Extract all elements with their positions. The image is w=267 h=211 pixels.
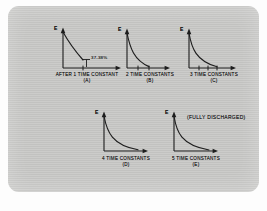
caption-e: 5 TIME CONSTANTS (E) xyxy=(154,156,238,168)
discharge-curve-d xyxy=(94,110,158,156)
discharge-panel-b: E xyxy=(118,28,178,72)
discharge-curve-a xyxy=(52,26,128,72)
y-axis-label-d: E xyxy=(95,109,98,115)
caption-c: 3 TIME CONSTANTS (C) xyxy=(172,72,256,84)
caption-b-text: 2 TIME CONSTANTS xyxy=(126,72,174,77)
panel-label-c: (C) xyxy=(172,78,256,84)
fully-discharged-note: (FULLY DISCHARGED) xyxy=(187,114,246,120)
discharge-panel-a: E 37-38% xyxy=(52,26,128,72)
discharge-curve-c xyxy=(180,28,246,72)
y-axis-label-c: E xyxy=(180,26,183,32)
percent-callout-a: 37-38% xyxy=(91,55,107,60)
caption-e-text: 5 TIME CONSTANTS xyxy=(172,156,220,161)
y-axis-label-a: E xyxy=(54,25,57,31)
y-axis-label-e: E xyxy=(165,109,168,115)
discharge-curve-b xyxy=(118,28,178,72)
discharge-panel-c: E xyxy=(180,28,246,72)
discharge-panel-d: E xyxy=(94,110,158,156)
caption-c-text: 3 TIME CONSTANTS xyxy=(190,72,238,77)
caption-d-text: 4 TIME CONSTANTS xyxy=(102,156,150,161)
panel-label-e: (E) xyxy=(154,162,238,168)
figure-page: E 37-38% AFTER 1 TIME CONSTANT (A) E 2 T… xyxy=(0,0,267,211)
y-axis-label-b: E xyxy=(118,26,121,32)
